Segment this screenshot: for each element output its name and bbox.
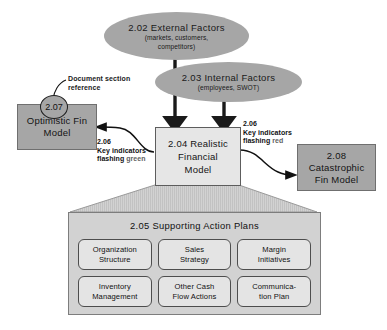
callout-document-section-reference: Document section reference <box>68 74 138 92</box>
plan-box-text: Other Cash Flow Actions <box>173 282 217 301</box>
plan-line-1: Margin <box>258 245 291 255</box>
plan-box-text: Communica- tion Plan <box>252 282 296 301</box>
ellipse-external-subtitle-2: competitors) <box>158 43 195 51</box>
box-realistic-line-2: Financial <box>168 150 228 163</box>
plan-box-text: Organization Structure <box>93 245 137 264</box>
note-red-number: 2.06 <box>243 120 292 129</box>
box-catastrophic-line-1: 2.08 <box>327 150 346 162</box>
note-green-line-1: Key indicators <box>97 147 146 156</box>
plan-box-margin-initiatives[interactable]: Margin Initiatives <box>237 239 311 270</box>
plan-line-2: tion Plan <box>252 292 296 302</box>
note-green-state: green <box>126 155 145 162</box>
panel-title: 2.05 Supporting Action Plans <box>69 220 320 231</box>
badge-section-2-07[interactable]: 2.07 <box>40 95 68 119</box>
box-realistic-text: 2.04 Realistic Financial Model <box>168 137 228 176</box>
ellipse-external-factors[interactable]: 2.02 External Factors (markets, customer… <box>104 12 249 60</box>
note-green-prefix: flashing <box>97 155 126 162</box>
funnel-shape <box>70 184 317 212</box>
plan-box-organization-structure[interactable]: Organization Structure <box>78 239 152 270</box>
note-red-line-2: flashing red <box>243 137 292 146</box>
note-key-indicators-green: 2.06 Key indicators flashing green <box>97 138 146 164</box>
arrow-realistic-to-catastrophic <box>240 150 293 175</box>
note-red-line-1: Key indicators <box>243 129 292 138</box>
plan-box-other-cash-flow-actions[interactable]: Other Cash Flow Actions <box>158 276 232 307</box>
panel-supporting-action-plans[interactable]: 2.05 Supporting Action Plans Organizatio… <box>68 212 321 315</box>
callout-line-1: Document section <box>68 74 138 83</box>
plan-line-1: Organization <box>93 245 137 255</box>
ellipse-internal-title: 2.03 Internal Factors <box>182 72 275 83</box>
plan-line-2: Initiatives <box>258 255 291 265</box>
box-realistic-line-1: 2.04 Realistic <box>168 137 228 150</box>
plan-line-2: Management <box>92 292 137 302</box>
note-red-prefix: flashing <box>243 137 272 144</box>
diagram-canvas: 2.02 External Factors (markets, customer… <box>0 0 387 330</box>
ellipse-external-subtitle-1: (markets, customers, <box>145 34 209 42</box>
plan-line-1: Inventory <box>92 282 137 292</box>
note-green-number: 2.06 <box>97 138 146 147</box>
box-catastrophic-fin-model[interactable]: 2.08 Catastrophic Fin Model <box>297 144 376 191</box>
plan-line-1: Sales <box>180 245 209 255</box>
plan-line-2: Strategy <box>180 255 209 265</box>
plan-line-1: Other Cash <box>173 282 217 292</box>
plan-line-1: Communica- <box>252 282 296 292</box>
box-catastrophic-line-2: Catastrophic <box>309 162 365 174</box>
box-optimistic-line-2: Model <box>44 127 71 139</box>
ellipse-internal-subtitle-1: (employees, SWOT) <box>198 84 259 92</box>
ellipse-internal-factors[interactable]: 2.03 Internal Factors (employees, SWOT) <box>155 62 302 102</box>
callout-line-2: reference <box>68 83 138 92</box>
badge-207-label: 2.07 <box>45 102 63 112</box>
plan-box-sales-strategy[interactable]: Sales Strategy <box>158 239 232 270</box>
action-plan-grid: Organization Structure Sales Strategy Ma… <box>78 239 311 307</box>
note-key-indicators-red: 2.06 Key indicators flashing red <box>243 120 292 146</box>
plan-box-text: Margin Initiatives <box>258 245 291 264</box>
box-catastrophic-line-3: Fin Model <box>315 174 359 186</box>
plan-line-2: Structure <box>93 255 137 265</box>
note-green-line-2: flashing green <box>97 155 146 164</box>
plan-box-text: Inventory Management <box>92 282 137 301</box>
box-realistic-financial-model[interactable]: 2.04 Realistic Financial Model <box>155 127 241 186</box>
box-realistic-line-3: Model <box>168 163 228 176</box>
ellipse-external-title: 2.02 External Factors <box>128 22 225 33</box>
plan-line-2: Flow Actions <box>173 292 217 302</box>
plan-box-text: Sales Strategy <box>180 245 209 264</box>
plan-box-inventory-management[interactable]: Inventory Management <box>78 276 152 307</box>
note-red-state: red <box>272 137 283 144</box>
plan-box-communication-plan[interactable]: Communica- tion Plan <box>237 276 311 307</box>
